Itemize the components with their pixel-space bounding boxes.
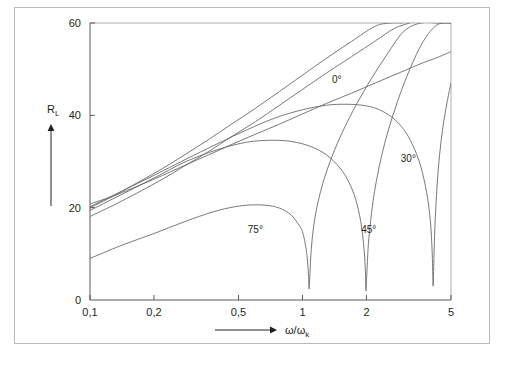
- y-axis-title: RL: [47, 103, 60, 118]
- chart-plot: 0,10,20,51250204060RLω/ωk0°30°45°75°: [15, 8, 489, 343]
- data-curve-75: [90, 22, 451, 289]
- data-curve-30: [90, 83, 451, 286]
- figure-frame: 0,10,20,51250204060RLω/ωk0°30°45°75°: [14, 7, 490, 344]
- y-tick-label: 0: [75, 294, 81, 306]
- y-tick-label: 60: [69, 17, 81, 29]
- x-tick-label: 5: [448, 306, 454, 318]
- data-curve-45rise: [90, 23, 410, 216]
- curve-label-45: 45°: [361, 224, 376, 235]
- y-tick-label: 20: [69, 202, 81, 214]
- curve-label-30: 30°: [401, 153, 416, 164]
- y-axis-arrow-head: [48, 124, 55, 131]
- plot-box-outline: [90, 23, 451, 300]
- x-tick-label: 1: [299, 306, 305, 318]
- data-curve-45: [90, 23, 451, 291]
- y-tick-label: 40: [69, 109, 81, 121]
- x-axis-arrow-head: [270, 327, 277, 334]
- curve-label-0: 0°: [332, 74, 342, 85]
- axis-lines: [90, 23, 451, 300]
- x-tick-label: 2: [363, 306, 369, 318]
- x-tick-label: 0,2: [146, 306, 161, 318]
- x-tick-label: 0,5: [231, 306, 246, 318]
- figure-page: 0,10,20,51250204060RLω/ωk0°30°45°75°: [0, 0, 505, 371]
- data-curve-0upper: [90, 23, 402, 208]
- curve-label-75: 75°: [248, 224, 263, 235]
- data-curve-0: [90, 52, 451, 204]
- x-tick-label: 0,1: [82, 306, 97, 318]
- x-axis-title: ω/ωk: [285, 324, 310, 339]
